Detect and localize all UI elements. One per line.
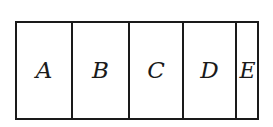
region-b-label: B — [92, 59, 109, 82]
region-c: C — [128, 23, 182, 118]
region-c-label: C — [147, 59, 165, 82]
region-d-label: D — [200, 59, 218, 82]
region-a: A — [17, 23, 71, 118]
region-d: D — [182, 23, 235, 118]
region-a-label: A — [36, 59, 53, 82]
region-b: B — [71, 23, 128, 118]
region-e: E — [235, 23, 257, 118]
partitioned-rectangle: A B C D E — [15, 21, 259, 120]
region-e-label: E — [239, 60, 255, 82]
